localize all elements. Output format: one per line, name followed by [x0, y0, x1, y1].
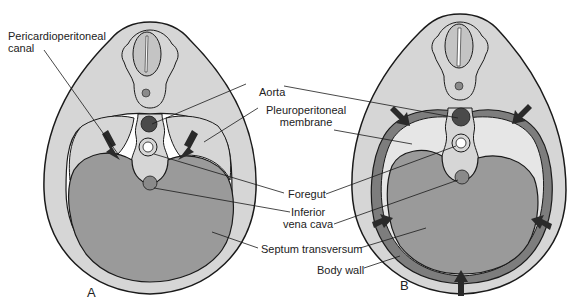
inferior-vena-cava-b — [455, 170, 469, 184]
foregut-lumen-a — [143, 142, 153, 152]
label-inferior-vena-cava: Inferior vena cava — [283, 206, 333, 230]
label-aorta: Aorta — [259, 86, 285, 98]
neural-canal-b — [457, 28, 461, 66]
foregut-lumen-b — [456, 138, 466, 148]
label-body-wall: Body wall — [317, 264, 364, 276]
aorta-a — [141, 116, 157, 132]
label-line: Inferior — [283, 206, 333, 218]
label-line: vena cava — [283, 218, 333, 230]
label-line: Pericardioperitoneal — [8, 30, 106, 42]
panel-letter-b: B — [400, 278, 409, 293]
label-foregut: Foregut — [288, 188, 326, 200]
label-pericardioperitoneal-canal: Pericardioperitoneal canal — [8, 30, 106, 54]
panel-a — [44, 22, 290, 294]
label-line: canal — [8, 42, 106, 54]
label-pleuroperitoneal-membrane: Pleuroperitoneal membrane — [266, 104, 346, 128]
panel-letter-a: A — [87, 285, 96, 300]
label-line: membrane — [266, 116, 346, 128]
label-septum-transversum: Septum transversum — [261, 243, 362, 255]
notochord-b — [455, 82, 463, 90]
label-line: Pleuroperitoneal — [266, 104, 346, 116]
notochord-a — [142, 89, 150, 97]
